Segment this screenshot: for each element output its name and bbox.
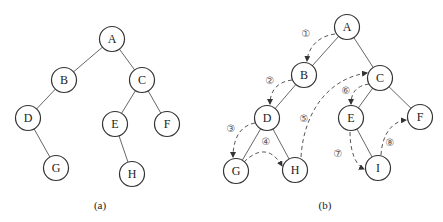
tree-a: A B C D E F G H (a) (16, 27, 180, 213)
node-d: D (16, 106, 41, 131)
svg-text:G: G (232, 164, 241, 178)
node-a: A (335, 15, 360, 40)
caption-b: (b) (319, 199, 332, 212)
node-d: D (255, 106, 280, 131)
step-label-6: ⑥ (342, 85, 351, 96)
step-arrow-3 (233, 123, 255, 157)
step-label-7: ⑦ (334, 148, 343, 159)
node-c: C (368, 66, 393, 91)
svg-text:E: E (347, 111, 354, 125)
svg-text:D: D (24, 111, 33, 125)
svg-text:A: A (108, 32, 117, 46)
node-h: H (283, 158, 308, 183)
tree-b: ① ② ③ ④ ⑤ ⑥ ⑦ ⑧ A B C D E F G H I (b) (224, 15, 433, 213)
svg-text:H: H (291, 163, 300, 177)
node-e: E (103, 112, 128, 137)
node-h: H (120, 162, 145, 187)
node-f: F (408, 105, 433, 130)
node-g: G (44, 156, 69, 181)
step-label-4: ④ (262, 136, 271, 147)
svg-text:A: A (343, 20, 352, 34)
svg-text:C: C (376, 71, 384, 85)
caption-a: (a) (94, 199, 107, 212)
svg-text:D: D (263, 111, 272, 125)
svg-text:G: G (52, 161, 61, 175)
svg-text:F: F (164, 117, 171, 131)
step-arrow-1 (307, 34, 335, 61)
step-arrow-4 (244, 152, 282, 166)
node-b: B (292, 63, 317, 88)
step-label-5: ⑤ (300, 113, 309, 124)
svg-text:I: I (376, 161, 380, 175)
svg-text:B: B (60, 73, 68, 87)
svg-text:C: C (138, 73, 146, 87)
node-a: A (100, 27, 125, 52)
svg-text:H: H (128, 167, 137, 181)
node-i: I (366, 156, 391, 181)
svg-text:E: E (111, 117, 118, 131)
node-e: E (339, 106, 364, 131)
step-label-1: ① (302, 28, 311, 39)
step-arrow-6 (351, 84, 369, 104)
node-f: F (155, 112, 180, 137)
binary-tree-figure: A B C D E F G H (a) ① ② ③ ④ ⑤ ⑥ ⑦ ⑧ (0, 0, 443, 222)
node-g: G (224, 159, 249, 184)
step-label-2: ② (266, 75, 275, 86)
node-c: C (130, 68, 155, 93)
svg-text:B: B (300, 68, 308, 82)
step-label-8: ⑧ (386, 137, 395, 148)
step-label-3: ③ (227, 123, 236, 134)
svg-text:F: F (417, 110, 424, 124)
node-b: B (52, 68, 77, 93)
